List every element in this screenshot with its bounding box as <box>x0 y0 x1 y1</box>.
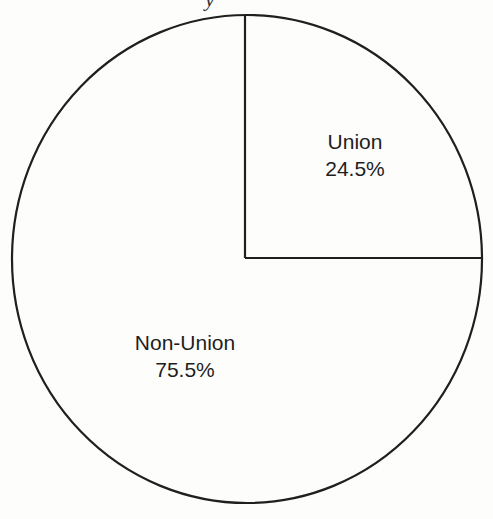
union-name: Union <box>300 128 410 155</box>
chart-page: y Union 24.5% Non-Union 75.5% <box>0 0 493 519</box>
union-percent: 24.5% <box>300 155 410 182</box>
non-union-percent: 75.5% <box>110 356 260 383</box>
slice-label-non-union: Non-Union 75.5% <box>110 329 260 383</box>
pie-chart <box>0 0 493 519</box>
non-union-name: Non-Union <box>110 329 260 356</box>
slice-label-union: Union 24.5% <box>300 128 410 182</box>
